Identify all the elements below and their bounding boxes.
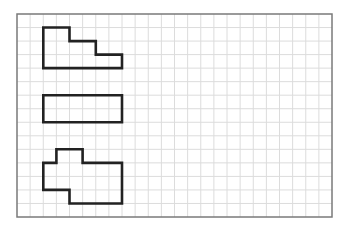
grid-lines <box>17 14 332 217</box>
grid-figure <box>0 0 350 228</box>
